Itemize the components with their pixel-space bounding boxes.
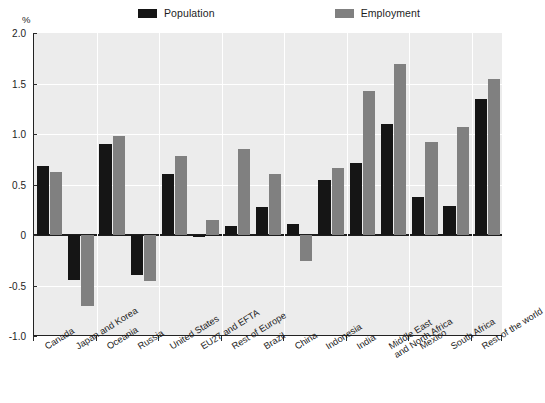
y-axis-labels: 2.01.51.00.50-0.5-1.0 [0, 33, 30, 336]
x-axis-labels: CanadaJapan and KoreaOceaniaRussiaUnited… [0, 336, 517, 403]
bar-employment [50, 172, 62, 235]
bar-group [472, 33, 503, 335]
bar-group [284, 33, 315, 335]
bar-group [190, 33, 221, 335]
bar-employment [488, 79, 500, 235]
plot-area [33, 33, 502, 336]
legend-swatch-employment [335, 9, 354, 18]
bar-group [34, 33, 65, 335]
y-axis-tick-label: -0.5 [9, 280, 26, 291]
bar-population [193, 235, 205, 237]
bar-groups [34, 33, 502, 335]
bar-group [65, 33, 96, 335]
bar-population [381, 124, 393, 235]
bar-group [253, 33, 284, 335]
bar-population [412, 197, 424, 235]
bar-employment [206, 220, 218, 235]
bar-employment [457, 127, 469, 235]
y-axis-unit-label: % [22, 14, 30, 25]
bar-group [347, 33, 378, 335]
bar-population [162, 174, 174, 235]
bar-employment [269, 174, 281, 235]
bar-population [318, 180, 330, 235]
bar-employment [81, 235, 93, 306]
legend-label-population: Population [164, 7, 215, 19]
bar-employment [363, 91, 375, 235]
bar-group [378, 33, 409, 335]
bar-group [97, 33, 128, 335]
bar-employment [238, 149, 250, 235]
bar-population [99, 144, 111, 235]
y-axis-tick-mark [33, 336, 37, 337]
bar-employment [144, 235, 156, 281]
y-axis-tick-label: 0.5 [12, 179, 26, 190]
y-axis-tick-label: 1.5 [12, 78, 26, 89]
bar-population [287, 224, 299, 235]
bar-employment [394, 64, 406, 235]
y-axis-tick-mark [33, 185, 37, 186]
chart-legend: Population Employment [100, 5, 430, 21]
x-axis-tick-label: India [355, 332, 377, 351]
bar-population [350, 163, 362, 235]
legend-item-employment: Employment [335, 7, 420, 19]
bar-employment [332, 168, 344, 235]
bar-population [37, 166, 49, 235]
bar-population [475, 99, 487, 235]
bar-group [409, 33, 440, 335]
bar-employment [113, 136, 125, 235]
bar-employment [425, 142, 437, 235]
y-axis-tick-mark [33, 235, 37, 236]
bar-employment [175, 156, 187, 235]
y-axis-tick-mark [33, 286, 37, 287]
y-axis-tick-mark [33, 33, 37, 34]
y-axis-tick-label: 0 [20, 230, 26, 241]
y-axis-tick-mark [33, 134, 37, 135]
legend-item-population: Population [138, 7, 215, 19]
y-axis-tick-label: 1.0 [12, 129, 26, 140]
bar-population [443, 206, 455, 235]
bar-population [225, 226, 237, 235]
bar-group [128, 33, 159, 335]
y-axis-tick-label: 2.0 [12, 28, 26, 39]
bar-group [222, 33, 253, 335]
bar-population [68, 235, 80, 280]
bar-population [131, 235, 143, 275]
bar-population [256, 207, 268, 235]
bar-group [315, 33, 346, 335]
bar-employment [300, 235, 312, 261]
y-axis-tick-mark [33, 84, 37, 85]
bar-group [159, 33, 190, 335]
legend-label-employment: Employment [361, 7, 420, 19]
legend-swatch-population [138, 9, 157, 18]
bar-group [440, 33, 471, 335]
